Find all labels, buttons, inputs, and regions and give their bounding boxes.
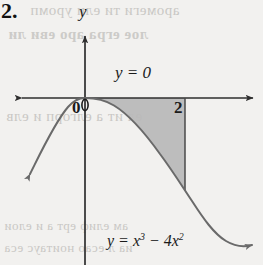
shaded-area-region xyxy=(85,98,185,191)
textbook-figure-panel: аромеги ти ели уромп лое егра аро еви ли… xyxy=(0,0,263,265)
origin-label: 0 xyxy=(72,98,81,118)
curve-equation-mid: − 4x xyxy=(145,232,179,249)
curve-equation-exponent-2: 2 xyxy=(179,231,184,242)
graph-canvas xyxy=(0,0,263,265)
x-tick-label-2: 2 xyxy=(174,98,183,118)
y-equals-zero-label: y = 0 xyxy=(115,63,151,83)
curve-equation-label: y = x3 − 4x2 xyxy=(107,232,184,250)
curve-equation-lead: y = x xyxy=(107,232,140,249)
y-axis-label: y xyxy=(79,2,87,22)
